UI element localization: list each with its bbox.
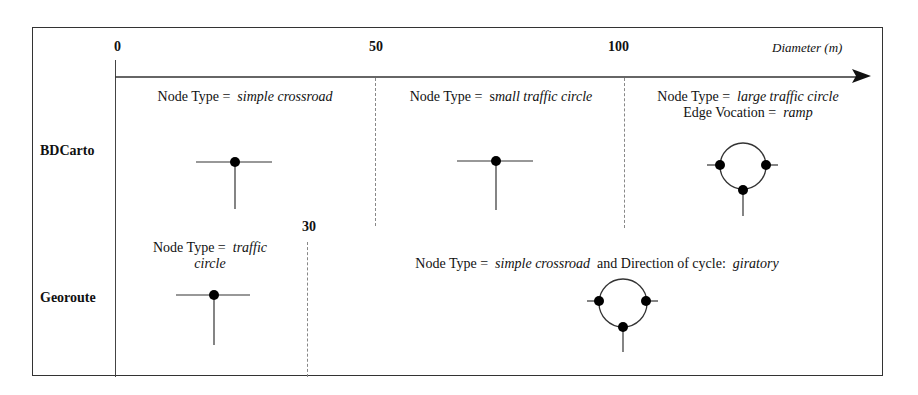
- axis-arrow-icon: [115, 69, 871, 83]
- giratory-cycle-icon: [587, 279, 658, 352]
- simple-crossroad-node-icon: [196, 157, 272, 209]
- small-traffic-circle-node-icon: [457, 156, 533, 210]
- diagram-graphics: [0, 0, 918, 395]
- large-traffic-circle-cycle-icon: [707, 143, 778, 216]
- georoute-traffic-circle-node-icon: [176, 290, 250, 345]
